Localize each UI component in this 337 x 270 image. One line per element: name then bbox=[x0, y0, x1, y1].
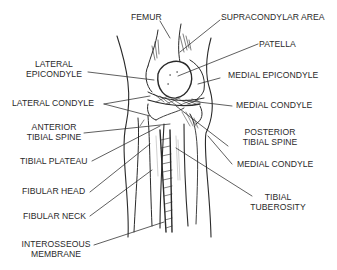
leg-outline-right bbox=[205, 38, 212, 237]
label-supracondylar-area: SUPRACONDYLAR AREA bbox=[221, 13, 325, 23]
leg-outline-left bbox=[117, 36, 129, 237]
label-tibial-plateau: TIBIAL PLATEAU bbox=[20, 157, 88, 167]
patella-shape bbox=[158, 61, 192, 98]
label-medial-condyle-upper: MEDIAL CONDYLE bbox=[236, 101, 312, 111]
label-femur: FEMUR bbox=[131, 13, 162, 23]
label-patella: PATELLA bbox=[259, 40, 296, 50]
label-lateral-condyle: LATERAL CONDYLE bbox=[12, 99, 94, 109]
label-medial-epicondyle: MEDIAL EPICONDYLE bbox=[228, 71, 318, 81]
label-fibular-neck: FIBULAR NECK bbox=[23, 212, 86, 222]
label-anterior-tibial-spine: ANTERIOR TIBIAL SPINE bbox=[26, 123, 82, 142]
label-fibular-head: FIBULAR HEAD bbox=[22, 187, 85, 197]
label-interosseous-membrane: INTEROSSEOUS MEMBRANE bbox=[18, 240, 94, 259]
label-posterior-tibial-spine: POSTERIOR TIBIAL SPINE bbox=[240, 128, 300, 147]
label-lateral-epicondyle: LATERAL EPICONDYLE bbox=[24, 60, 84, 79]
knee-anatomy-diagram: FEMUR SUPRACONDYLAR AREA PATELLA LATERAL… bbox=[0, 0, 337, 270]
label-tibial-tuberosity: TIBIAL TUBEROSITY bbox=[248, 193, 308, 212]
label-medial-condyle-lower: MEDIAL CONDYLE bbox=[237, 160, 313, 170]
